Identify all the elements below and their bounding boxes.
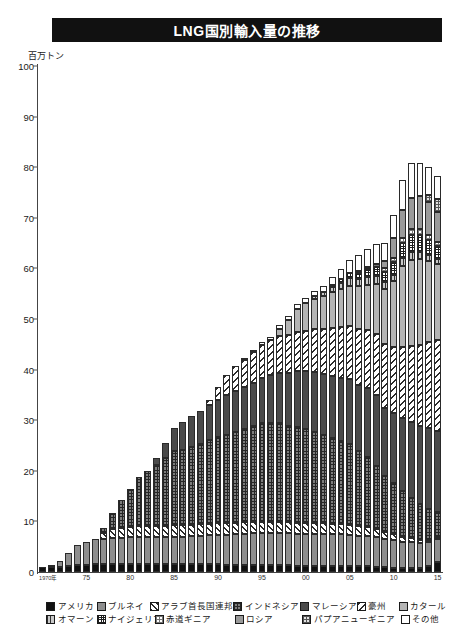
bar-segment [162, 526, 169, 537]
bar-segment [399, 243, 406, 258]
legend-label: ブルネイ [108, 602, 144, 611]
legend-swatch-icon [300, 602, 309, 611]
legend-item-brunei[interactable]: ブルネイ [97, 602, 150, 611]
legend-item-qatar[interactable]: カタール [399, 602, 447, 611]
bar-segment [250, 522, 257, 533]
bar-column[interactable] [373, 244, 380, 572]
y-axis-tick-label: 0 [29, 567, 34, 578]
bar-column[interactable] [241, 358, 248, 572]
bar-segment [241, 429, 248, 523]
bar-column[interactable] [346, 260, 353, 572]
bar-column[interactable] [83, 542, 90, 572]
bar-segment [408, 422, 415, 498]
bar-segment [223, 565, 230, 572]
bar-segment [364, 536, 371, 566]
bar-segment [285, 335, 292, 373]
bar-column[interactable] [57, 561, 64, 572]
bar-column[interactable] [364, 249, 371, 572]
bar-column[interactable] [232, 366, 239, 572]
bar-segment [364, 285, 371, 331]
legend-item-malaysia[interactable]: マレーシア [300, 602, 357, 611]
bar-column[interactable] [425, 167, 432, 572]
bar-segment [302, 303, 309, 331]
legend-item-eqguinea[interactable]: 赤道ギニア [155, 615, 235, 624]
bar-column[interactable] [215, 387, 222, 572]
bar-column[interactable] [399, 180, 406, 572]
bar-column[interactable] [338, 269, 345, 572]
bar-column[interactable] [329, 277, 336, 572]
bar-column[interactable] [276, 325, 283, 572]
bar-column[interactable] [285, 316, 292, 572]
bar-segment [302, 429, 309, 523]
bar-segment [188, 525, 195, 536]
bar-column[interactable] [162, 443, 169, 572]
bar-column[interactable] [109, 513, 116, 572]
bar-segment [74, 565, 81, 572]
bar-segment [136, 537, 143, 564]
legend-swatch-icon [46, 602, 55, 611]
bar-column[interactable] [417, 163, 424, 572]
legend-item-png[interactable]: パプアニューギニア [302, 615, 400, 624]
bar-column[interactable] [144, 471, 151, 572]
bar-segment [346, 278, 353, 286]
bar-column[interactable] [250, 350, 257, 572]
bar-segment [223, 395, 230, 434]
bar-column[interactable] [188, 416, 195, 572]
legend-item-uae[interactable]: アラブ首長国連邦 [150, 602, 234, 611]
legend-item-america[interactable]: アメリカ [46, 602, 97, 611]
bar-segment [285, 426, 292, 522]
bar-segment [355, 566, 362, 572]
legend-item-russia[interactable]: ロシア [235, 615, 302, 624]
legend-swatch-icon [401, 615, 410, 624]
x-axis-tick-label: 85 [170, 574, 178, 581]
legend-item-australia[interactable]: 豪州 [357, 602, 399, 611]
bar-segment [136, 526, 143, 537]
bar-segment [417, 259, 424, 345]
bar-segment [241, 387, 248, 428]
bar-column[interactable] [320, 286, 327, 572]
legend-item-oman[interactable]: オマーン [46, 615, 97, 624]
bar-column[interactable] [355, 255, 362, 572]
bar-segment [136, 477, 143, 527]
bar-column[interactable] [127, 489, 134, 572]
bar-segment [311, 523, 318, 534]
bar-column[interactable] [259, 342, 266, 572]
bar-column[interactable] [302, 298, 309, 572]
bar-column[interactable] [48, 565, 55, 572]
bar-segment [399, 418, 406, 491]
bar-segment [311, 566, 318, 572]
bar-column[interactable] [179, 422, 186, 572]
bar-column[interactable] [206, 400, 213, 572]
bar-column[interactable] [381, 243, 388, 572]
bar-column[interactable] [39, 567, 46, 572]
bar-column[interactable] [408, 163, 415, 572]
bar-column[interactable] [153, 458, 160, 572]
bar-column[interactable] [118, 500, 125, 572]
bar-column[interactable] [223, 375, 230, 572]
bar-segment [390, 262, 397, 275]
legend-item-other[interactable]: その他 [401, 615, 446, 624]
bar-segment [320, 566, 327, 572]
bar-column[interactable] [267, 337, 274, 572]
bar-segment [127, 527, 134, 537]
bar-column[interactable] [311, 291, 318, 572]
bar-column[interactable] [171, 428, 178, 572]
bar-column[interactable] [74, 545, 81, 572]
bar-column[interactable] [294, 304, 301, 572]
bar-column[interactable] [136, 477, 143, 572]
bar-segment [223, 523, 230, 534]
x-axis-tick-label: 80 [126, 574, 134, 581]
bar-column[interactable] [197, 411, 204, 572]
x-axis-line [37, 572, 443, 573]
bar-column[interactable] [390, 215, 397, 572]
bar-column[interactable] [100, 528, 107, 572]
legend-item-nigeria[interactable]: ナイジェリア [97, 615, 155, 624]
bar-column[interactable] [65, 553, 72, 572]
bar-column[interactable] [434, 176, 441, 572]
bar-column[interactable] [92, 539, 99, 572]
bar-segment [285, 522, 292, 533]
legend-item-indonesia[interactable]: インドネシア [233, 602, 300, 611]
bar-segment [223, 535, 230, 565]
bar-segment [294, 566, 301, 572]
bar-segment [215, 564, 222, 572]
